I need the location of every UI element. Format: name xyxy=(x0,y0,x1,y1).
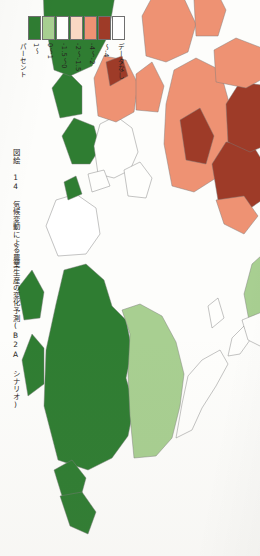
legend-swatch-spacer xyxy=(14,16,27,40)
legend-label-row: データなし ～-4 -4～-2 -2～-1.5 -1.5～0 0～1 1～ パー… xyxy=(14,42,125,80)
legend-swatch-minus15-zero xyxy=(56,16,69,40)
legend-label-lt-minus4: ～-4 xyxy=(98,42,111,80)
legend-unit-label: パーセント xyxy=(14,42,27,80)
figure-caption: 図絵 14 気候変動による農業生産の変化予測(B2A シナリオ) xyxy=(2,148,28,448)
legend-swatch-zero-one xyxy=(42,16,55,40)
legend-swatch-gt-one xyxy=(28,16,41,40)
legend-label-no-data: データなし xyxy=(112,42,125,80)
map-legend: データなし ～-4 -4～-2 -2～-1.5 -1.5～0 0～1 1～ パー… xyxy=(14,12,118,130)
document-page: .c{stroke:#7c7c7c;stroke-width:0.45;stro… xyxy=(0,0,260,556)
legend-swatch-no-data xyxy=(112,16,125,40)
legend-swatch-row xyxy=(14,16,125,40)
legend-label-gt-one: 1～ xyxy=(28,42,41,80)
legend-label-minus2-minus15: -2～-1.5 xyxy=(70,42,83,80)
legend-swatch-lt-minus4 xyxy=(98,16,111,40)
legend-label-minus4-minus2: -4～-2 xyxy=(84,42,97,80)
legend-label-minus15-zero: -1.5～0 xyxy=(56,42,69,80)
legend-swatch-minus4-minus2 xyxy=(84,16,97,40)
legend-label-zero-one: 0～1 xyxy=(42,42,55,80)
legend-swatch-minus2-minus15 xyxy=(70,16,83,40)
